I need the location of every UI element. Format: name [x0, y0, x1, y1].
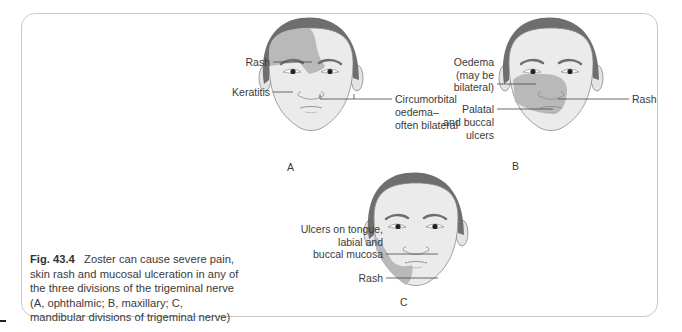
label-c-ulcers-1: Ulcers on tongue,	[293, 223, 383, 235]
label-b-ulcers-2: and buccal	[434, 116, 494, 128]
panel-letter-b: B	[512, 160, 519, 172]
label-a-oedema-2: oedema–	[395, 106, 439, 118]
panel-letter-a: A	[287, 161, 294, 173]
label-c-ulcers-3: buccal mucosa	[293, 248, 383, 260]
label-b-oedema-2: (may be	[434, 69, 494, 81]
face-a-ophthalmic	[259, 17, 363, 130]
label-b-oedema-3: bilateral)	[434, 81, 494, 93]
label-b-ulcers-3: ulcers	[434, 129, 494, 141]
figure-caption: Fig. 43.4 Zoster can cause severe pain, …	[30, 252, 240, 325]
label-c-rash: Rash	[293, 272, 383, 284]
label-b-oedema-1: Oedema	[434, 56, 494, 68]
label-b-rash: Rash	[632, 93, 657, 105]
label-b-ulcers-1: Palatal	[434, 103, 494, 115]
figure-number: Fig. 43.4	[30, 253, 75, 265]
label-a-keratitis: Keratitis	[222, 86, 270, 98]
label-c-ulcers-2: labial and	[293, 236, 383, 248]
label-a-rash: Rash	[222, 56, 270, 68]
face-b-maxillary	[499, 17, 603, 130]
panel-letter-c: C	[400, 296, 408, 308]
